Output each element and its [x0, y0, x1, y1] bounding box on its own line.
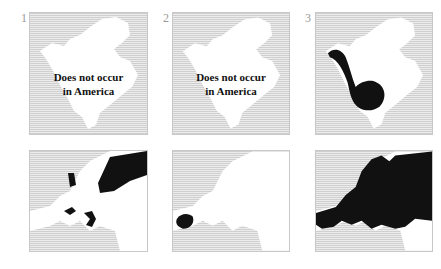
panel-number-3: 3 — [305, 12, 311, 24]
panel-number-2: 2 — [163, 12, 169, 24]
caption-line-2: in America — [30, 85, 147, 99]
map-panel-america-1: Does not occur in America — [29, 12, 148, 135]
map-panel-europe-2 — [172, 150, 290, 252]
caption-line-1: Does not occur — [30, 71, 147, 85]
map-panel-europe-3 — [315, 150, 433, 252]
europe-map — [173, 151, 289, 250]
caption-line-1: Does not occur — [173, 71, 289, 85]
map-panel-europe-1 — [29, 150, 148, 252]
map-panel-america-3 — [315, 12, 433, 135]
species-range — [316, 151, 432, 228]
panel-number-1: 1 — [21, 12, 27, 24]
map-panel-america-2: Does not occur in America — [172, 12, 290, 135]
north-america-map — [326, 17, 423, 128]
caption-line-2: in America — [173, 85, 289, 99]
